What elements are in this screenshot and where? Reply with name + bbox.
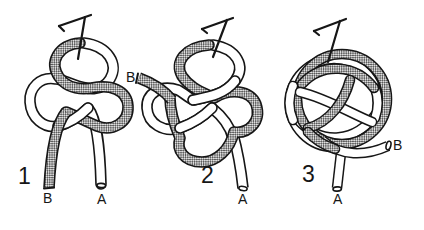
figure-3-end-label-b: B [393, 138, 402, 152]
figure-1-end-label-b: B [43, 191, 52, 205]
knot-diagram-page: 1 B A B 2 A 3 B A [0, 0, 424, 230]
knot-step-2-diagram [136, 18, 257, 191]
figure-3-number: 3 [302, 163, 315, 186]
knot-steps-illustration [0, 0, 424, 230]
figure-2-end-label-b: B [126, 70, 135, 84]
rope-strand-shaded [302, 69, 374, 88]
figure-2-number: 2 [201, 164, 214, 187]
rope-cut-end [44, 188, 54, 189]
rope-tube-end-a [97, 183, 106, 188]
figure-3-end-label-a: A [333, 192, 342, 206]
figure-2-end-label-a: A [238, 192, 247, 206]
figure-1-end-label-a: A [97, 192, 106, 206]
rope-cut-end [136, 74, 138, 84]
knot-step-1-diagram [30, 15, 128, 189]
figure-1-number: 1 [18, 165, 31, 188]
